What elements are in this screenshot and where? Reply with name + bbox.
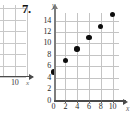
y-tick-label: 10 xyxy=(40,39,51,47)
y-tick-label: 8 xyxy=(40,51,51,59)
partial-x-tick-label-10: 10 xyxy=(11,78,19,87)
gridline-vertical xyxy=(113,13,114,101)
gridline-horizontal xyxy=(0,31,26,32)
data-point xyxy=(74,46,79,51)
x-tick-label: 2 xyxy=(59,103,71,111)
gridline-horizontal xyxy=(54,21,119,22)
x-tick-label: 0 xyxy=(48,103,60,111)
gridline-horizontal xyxy=(54,89,119,90)
x-tick-label: 6 xyxy=(83,103,95,111)
gridline-vertical xyxy=(65,13,66,101)
y-tick-label: 6 xyxy=(40,62,51,70)
x-tick-mark xyxy=(65,100,66,103)
x-tick-mark xyxy=(101,100,102,103)
y-axis xyxy=(54,8,56,101)
data-point xyxy=(110,12,115,17)
x-tick-label: 4 xyxy=(71,103,83,111)
data-point xyxy=(98,24,103,29)
gridline-vertical xyxy=(77,13,78,101)
partial-x-axis-label: x xyxy=(26,79,29,87)
problem-number-label: 7. xyxy=(22,2,31,17)
scatter-chart: y x 024681012140246810 xyxy=(40,0,132,124)
gridline-horizontal xyxy=(0,54,26,55)
y-tick-label: 12 xyxy=(40,28,51,36)
plot-area xyxy=(54,13,119,101)
data-point xyxy=(86,35,91,40)
gridline-horizontal xyxy=(54,78,119,79)
x-axis-title: x xyxy=(126,104,129,113)
x-tick-label: 10 xyxy=(107,103,119,111)
gridline-horizontal xyxy=(0,66,26,67)
gridline-horizontal xyxy=(54,55,119,56)
x-tick-mark xyxy=(77,100,78,103)
y-tick-label: 14 xyxy=(40,17,51,25)
gridline-horizontal xyxy=(0,43,26,44)
gridline-vertical xyxy=(89,13,90,101)
partial-x-axis-arrow xyxy=(17,76,33,77)
gridline-horizontal xyxy=(54,66,119,67)
x-tick-mark xyxy=(89,100,90,103)
x-tick-mark xyxy=(113,100,114,103)
x-tick-label: 8 xyxy=(95,103,107,111)
gridline-horizontal xyxy=(54,43,119,44)
y-tick-label: 4 xyxy=(40,74,51,82)
y-axis-title: y xyxy=(52,1,55,10)
data-point xyxy=(63,58,68,63)
y-tick-label: 2 xyxy=(40,85,51,93)
gridline-horizontal xyxy=(54,32,119,33)
gridline-horizontal xyxy=(0,20,26,21)
